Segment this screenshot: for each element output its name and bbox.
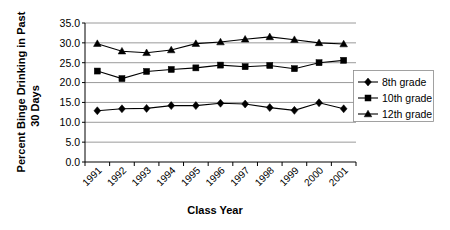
data-point-marker-diamond [291, 106, 298, 114]
data-point-marker-diamond [316, 99, 323, 107]
data-point-marker-triangle [266, 33, 274, 40]
series-12th-grade [94, 33, 348, 55]
data-point-marker-square [291, 66, 297, 72]
x-axis-tick-marks [85, 162, 356, 166]
legend-label-8th-grade[interactable]: 8th grade [382, 76, 427, 88]
y-tick-label: 30.0 [60, 37, 81, 49]
x-tick-label: 2000 [302, 164, 326, 188]
data-point-marker-square [365, 95, 371, 101]
x-tick-label: 1999 [277, 164, 301, 188]
y-tick-label: 35.0 [60, 17, 81, 29]
data-point-marker-diamond [266, 104, 273, 112]
data-point-marker-square [218, 62, 224, 68]
data-point-marker-square [94, 68, 100, 74]
data-point-marker-diamond [340, 105, 347, 113]
data-point-marker-square [144, 68, 150, 74]
data-point-marker-diamond [143, 104, 150, 112]
data-point-marker-square [316, 60, 322, 66]
x-tick-label: 1993 [129, 164, 153, 188]
data-point-marker-diamond [217, 99, 224, 107]
x-tick-label: 1991 [80, 164, 104, 188]
chart-legend: 8th grade10th grade12th grade [354, 71, 434, 122]
y-tick-label: 10.0 [60, 116, 81, 128]
data-point-marker-diamond [242, 100, 249, 108]
data-point-marker-square [119, 76, 125, 82]
y-axis-title-line2: 30 Days [29, 85, 41, 127]
data-point-marker-square [242, 64, 248, 70]
x-tick-label: 1996 [203, 164, 227, 188]
x-tick-label: 1997 [228, 164, 252, 188]
series-8th-grade [94, 99, 347, 115]
chart-canvas: Percent Binge Drinking in Past 30 Days 0… [0, 0, 450, 230]
x-tick-label: 1992 [105, 164, 129, 188]
y-tick-label: 0.0 [65, 156, 80, 168]
binge-drinking-line-chart: Percent Binge Drinking in Past 30 Days 0… [0, 0, 450, 230]
y-tick-label: 5.0 [65, 136, 80, 148]
y-tick-label: 20.0 [60, 76, 81, 88]
x-tick-label: 1994 [154, 164, 178, 188]
data-point-marker-square [168, 66, 174, 72]
x-axis-title: Class Year [187, 204, 243, 216]
y-axis-ticks: 0.05.010.015.020.025.030.035.0 [60, 17, 85, 168]
data-point-marker-square [267, 62, 273, 68]
x-tick-label: 1998 [253, 164, 277, 188]
legend-label-10th-grade[interactable]: 10th grade [382, 92, 432, 104]
legend-label-12th-grade[interactable]: 12th grade [382, 108, 432, 120]
y-tick-label: 15.0 [60, 96, 81, 108]
data-point-marker-diamond [94, 107, 101, 115]
data-point-marker-diamond [119, 105, 126, 113]
data-point-marker-square [193, 65, 199, 71]
series-10th-grade [94, 57, 346, 81]
x-tick-label: 2001 [327, 164, 351, 188]
data-point-marker-square [341, 57, 347, 63]
x-tick-label: 1995 [179, 164, 203, 188]
x-axis-tick-labels: 1991199219931994199519961997199819992000… [80, 164, 350, 188]
y-axis-title-group: Percent Binge Drinking in Past 30 Days [15, 11, 41, 172]
y-axis-title-line1: Percent Binge Drinking in Past [15, 11, 27, 172]
y-tick-label: 25.0 [60, 57, 81, 69]
